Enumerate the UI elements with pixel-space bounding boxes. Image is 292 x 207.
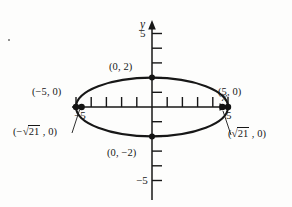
label-top-covertex: (0, 2) — [109, 62, 132, 73]
label-right-vertex: (5, 0) — [218, 87, 241, 98]
label-bottom-covertex: (0, −2) — [107, 148, 136, 159]
y-axis — [148, 20, 156, 200]
point-bottom-covertex — [149, 133, 155, 139]
left-focus-prefix: (− — [13, 126, 23, 137]
label-left-vertex: (−5, 0) — [32, 87, 61, 98]
point-right-focus — [219, 104, 225, 110]
right-focus-radicand: 21 — [237, 127, 249, 139]
label-left-focus: (−√21 , 0) — [13, 126, 57, 138]
x-axis — [72, 103, 229, 111]
x-tick-label-neg5: −5 — [74, 110, 86, 121]
scan-speck — [8, 39, 10, 41]
left-focus-radicand: 21 — [28, 125, 40, 137]
ellipse-figure: y x 5 −5 −5 5 (0, 2) (0, −2) (−5, 0) (5,… — [0, 0, 292, 207]
x-tick-label-5: 5 — [226, 110, 232, 121]
y-tick-label-neg5: −5 — [136, 175, 148, 186]
left-focus-suffix: , 0) — [40, 126, 57, 137]
y-tick-label-5: 5 — [140, 28, 146, 39]
label-right-focus: (√21 , 0) — [228, 128, 266, 140]
right-focus-suffix: , 0) — [249, 128, 266, 139]
point-top-covertex — [149, 75, 155, 81]
